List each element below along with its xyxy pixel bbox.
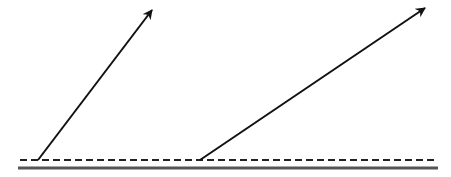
arrow-vector-1 [38,10,152,160]
arrow-vector-2 [200,8,425,160]
vector-diagram [0,0,451,177]
